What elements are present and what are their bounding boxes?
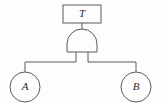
and-gate-shape[interactable] [67, 29, 97, 52]
basic-event-label-a: A [21, 80, 29, 92]
basic-event-label-b: B [133, 80, 140, 92]
diagram-canvas: T A B [0, 0, 162, 103]
top-event-label: T [79, 7, 86, 19]
fault-tree-diagram: T A B [0, 0, 162, 103]
